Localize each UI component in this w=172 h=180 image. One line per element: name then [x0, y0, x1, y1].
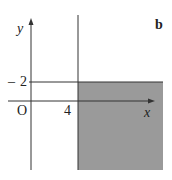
- graph-canvas: [0, 0, 172, 180]
- panel-label: b: [155, 18, 163, 32]
- y-tick-2: 2: [20, 75, 27, 89]
- x-axis-label: x: [144, 106, 150, 120]
- x-tick-4: 4: [64, 104, 71, 118]
- origin-label: O: [17, 104, 27, 118]
- y-axis-label: y: [17, 22, 23, 36]
- inequality-graph: b y x O 4 – 2: [0, 0, 172, 180]
- y-tick-dash: –: [8, 75, 15, 89]
- y-axis-arrow-icon: [29, 18, 34, 25]
- shaded-region: [78, 82, 163, 170]
